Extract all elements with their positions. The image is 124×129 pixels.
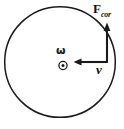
- coriolis-force-label: Fcor: [93, 2, 111, 19]
- coriolis-force-vector-arrow: [104, 23, 111, 63]
- diagram-canvas: [0, 0, 124, 129]
- angular-velocity-label: ω: [56, 45, 66, 56]
- rotation-axis-out-of-page-icon: [59, 61, 67, 69]
- coriolis-force-subscript: cor: [101, 10, 111, 19]
- coriolis-force-symbol: F: [93, 1, 101, 16]
- velocity-label: v: [96, 63, 102, 76]
- coriolis-force-diagram: ω Fcor v: [0, 0, 124, 129]
